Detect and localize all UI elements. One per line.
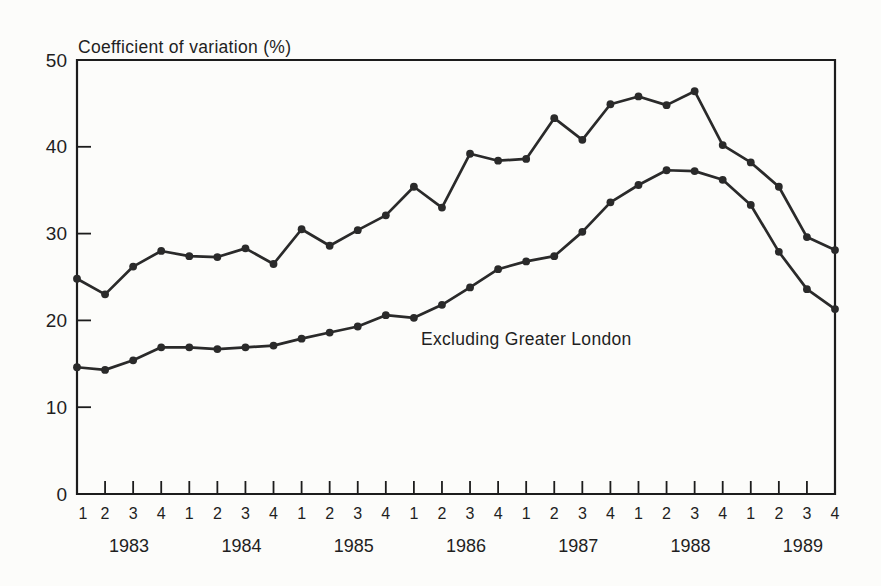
x-axis-quarter-label: 3: [129, 505, 138, 522]
series-upper-data-point: [73, 275, 81, 283]
x-axis-year-label: 1986: [446, 536, 486, 556]
series-lower-data-point: [831, 305, 839, 313]
y-axis-tick-label: 0: [56, 484, 67, 505]
chart-plot-area: 0102030405012341234123412341234123412341…: [46, 50, 840, 557]
series-upper-data-point: [803, 233, 811, 241]
series-upper-data-point: [775, 183, 783, 191]
series-lower-data-point: [494, 265, 502, 273]
y-axis-tick-label: 20: [46, 310, 67, 331]
series-upper-data-point: [242, 244, 250, 252]
series-upper-data-point: [635, 93, 643, 101]
series-upper-data-point: [354, 226, 362, 234]
series-lower-data-point: [578, 228, 586, 236]
series-upper-data-point: [550, 114, 558, 122]
x-axis-quarter-label: 2: [101, 505, 110, 522]
x-axis-quarter-label: 1: [409, 505, 418, 522]
y-axis-tick-label: 40: [46, 136, 67, 157]
series-upper-data-point: [213, 253, 221, 261]
series-upper-data-point: [522, 155, 530, 163]
series-upper-data-point: [410, 183, 418, 191]
plot-frame: [77, 60, 835, 494]
series-lower-data-point: [354, 323, 362, 331]
series-lower-data-point: [270, 342, 278, 350]
series-lower-data-point: [747, 201, 755, 209]
series-lower-data-point: [607, 198, 615, 206]
series-lower-data-point: [466, 284, 474, 292]
x-axis-year-label: 1985: [334, 536, 374, 556]
x-axis-quarter-label: 4: [606, 505, 615, 522]
series-upper-data-point: [438, 204, 446, 212]
series-lower-data-point: [185, 343, 193, 351]
series-upper-data-point: [719, 141, 727, 149]
x-axis-quarter-label: 1: [746, 505, 755, 522]
x-axis-quarter-label: 4: [718, 505, 727, 522]
series-lower-data-point: [635, 181, 643, 189]
series-lower-data-point: [438, 301, 446, 309]
series-upper-data-point: [326, 242, 334, 250]
series-lower-data-point: [242, 343, 250, 351]
x-axis-quarter-label: 4: [269, 505, 278, 522]
series-lower-data-point: [691, 167, 699, 175]
series-upper-data-point: [382, 211, 390, 219]
series-upper-data-point: [663, 101, 671, 109]
series-lower-data-point: [775, 248, 783, 256]
x-axis-year-label: 1989: [783, 536, 823, 556]
x-axis-quarter-label: 4: [831, 505, 840, 522]
y-axis-tick-label: 10: [46, 397, 67, 418]
series-label-excluding-greater-london: Excluding Greater London: [421, 329, 632, 349]
x-axis-quarter-label: 1: [79, 505, 88, 522]
series-lower-data-point: [522, 257, 530, 265]
x-axis-quarter-label: 2: [325, 505, 334, 522]
x-axis-quarter-label: 1: [634, 505, 643, 522]
series-upper-data-point: [578, 136, 586, 144]
series-lower-data-point: [382, 311, 390, 319]
series-upper-data-point: [129, 263, 137, 271]
series-lower-data-point: [410, 314, 418, 322]
series-lower-data-point: [803, 285, 811, 293]
x-axis-year-label: 1984: [221, 536, 261, 556]
series-lower-data-point: [326, 329, 334, 337]
series-upper-data-point: [157, 247, 165, 255]
series-upper-data-point: [607, 100, 615, 108]
y-axis-tick-label: 50: [46, 50, 67, 71]
series-lower-data-point: [73, 363, 81, 371]
x-axis-quarter-label: 1: [185, 505, 194, 522]
series-lower-data-point: [101, 366, 109, 374]
x-axis-year-label: 1983: [109, 536, 149, 556]
series-lower-data-point: [663, 166, 671, 174]
x-axis-quarter-label: 2: [774, 505, 783, 522]
x-axis-quarter-label: 3: [802, 505, 811, 522]
x-axis-quarter-label: 3: [578, 505, 587, 522]
chart-title: Coefficient of variation (%): [78, 37, 291, 57]
x-axis-quarter-label: 2: [550, 505, 559, 522]
series-upper-data-point: [270, 260, 278, 268]
coefficient-of-variation-line-chart: Coefficient of variation (%) Excluding G…: [0, 0, 881, 586]
series-upper-data-point: [747, 159, 755, 167]
series-lower-data-point: [129, 356, 137, 364]
x-axis-quarter-label: 4: [381, 505, 390, 522]
series-upper-line: [77, 91, 835, 294]
series-upper-data-point: [691, 87, 699, 95]
series-upper-data-point: [101, 290, 109, 298]
series-lower-data-point: [157, 343, 165, 351]
series-upper-data-point: [185, 252, 193, 260]
series-lower-data-point: [298, 335, 306, 343]
x-axis-quarter-label: 4: [157, 505, 166, 522]
series-upper-data-point: [298, 225, 306, 233]
x-axis-quarter-label: 3: [690, 505, 699, 522]
x-axis-year-label: 1987: [558, 536, 598, 556]
scanned-chart-page: Coefficient of variation (%) Excluding G…: [0, 0, 881, 586]
x-axis-quarter-label: 3: [466, 505, 475, 522]
x-axis-quarter-label: 2: [213, 505, 222, 522]
x-axis-quarter-label: 2: [662, 505, 671, 522]
x-axis-year-label: 1988: [671, 536, 711, 556]
series-lower-data-point: [213, 345, 221, 353]
x-axis-quarter-label: 4: [494, 505, 503, 522]
series-upper-data-point: [466, 150, 474, 158]
x-axis-quarter-label: 1: [297, 505, 306, 522]
x-axis-quarter-label: 3: [241, 505, 250, 522]
series-lower-data-point: [719, 176, 727, 184]
x-axis-quarter-label: 2: [438, 505, 447, 522]
series-upper-data-point: [831, 246, 839, 254]
x-axis-quarter-label: 3: [353, 505, 362, 522]
